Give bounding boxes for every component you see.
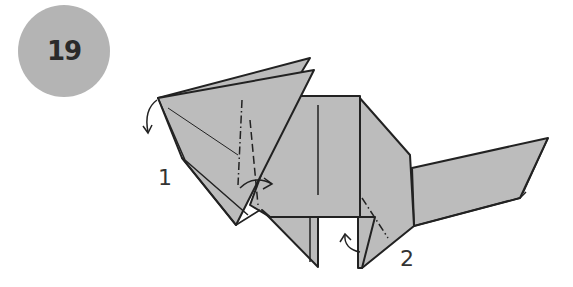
origami-fox-diagram <box>0 0 573 287</box>
annotation-2: 2 <box>400 246 414 271</box>
valley-fold-arrow-icon <box>147 100 157 132</box>
annotation-1: 1 <box>158 165 172 190</box>
